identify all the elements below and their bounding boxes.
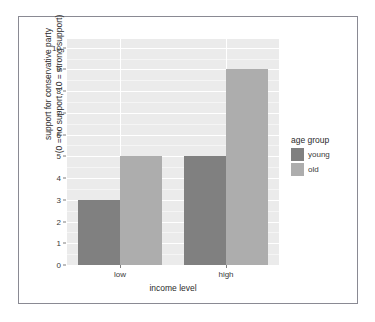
y-tick-label: 8 [57,87,61,96]
legend-title: age group [291,135,353,145]
y-tick-mark [63,47,66,48]
bar-old-high [226,69,268,265]
y-tick-mark [63,91,66,92]
legend-swatch-old [291,163,304,176]
x-tick-label-low: low [114,270,126,279]
y-tick-mark [63,199,66,200]
y-tick-label: 1 [57,239,61,248]
y-axis-ticks: 012345678910 [41,39,67,265]
y-tick-mark [63,134,66,135]
y-tick-label: 7 [57,108,61,117]
y-tick-label: 0 [57,261,61,270]
bar-old-low [120,156,162,265]
y-tick-label: 2 [57,217,61,226]
x-tick-mark [120,265,121,268]
gridline-minor [67,59,279,60]
plot-panel [67,39,279,265]
y-tick-mark [63,265,66,266]
y-tick-label: 6 [57,130,61,139]
y-tick-mark [63,69,66,70]
bar-young-low [78,200,120,265]
legend: age group youngold [291,135,353,178]
legend-label-young: young [308,150,330,159]
legend-item-old: old [291,163,353,176]
y-tick-mark [63,221,66,222]
y-tick-mark [63,178,66,179]
y-tick-mark [63,243,66,244]
x-tick-mark [226,265,227,268]
legend-swatch-young [291,148,304,161]
y-tick-mark [63,112,66,113]
chart-figure: support for conservative party (0 = no s… [18,16,358,304]
legend-items: youngold [291,148,353,176]
legend-label-old: old [308,165,319,174]
y-tick-label: 5 [57,152,61,161]
bar-young-high [184,156,226,265]
x-axis-title: income level [67,283,279,293]
y-tick-label: 3 [57,195,61,204]
legend-item-young: young [291,148,353,161]
y-tick-label: 10 [52,43,61,52]
x-tick-label-high: high [218,270,233,279]
gridline-major [67,48,279,49]
y-tick-label: 9 [57,65,61,74]
y-tick-label: 4 [57,174,61,183]
y-tick-mark [63,156,66,157]
